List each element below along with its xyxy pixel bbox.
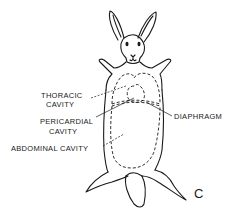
tail-base (126, 173, 142, 176)
right-hindlimb (142, 170, 186, 200)
right-eye (138, 42, 141, 47)
label-pericardial-line2: CAVITY (49, 127, 77, 136)
label-pericardial-line1: PERICARDIAL (40, 117, 93, 126)
body-right-side (155, 90, 164, 170)
body-left-side (104, 90, 108, 172)
label-abdominal: ABDOMINAL CAVITY (11, 144, 88, 153)
nose (130, 55, 136, 61)
panel-letter: C (194, 186, 203, 201)
rabbit-cavity-diagram: THORACIC CAVITY PERICARDIAL CAVITY ABDOM… (0, 0, 240, 215)
left-forelimb (99, 59, 126, 90)
label-thoracic-line2: CAVITY (46, 100, 74, 109)
label-thoracic-line1: THORACIC (41, 91, 83, 100)
right-forelimb (140, 59, 171, 90)
right-ear (138, 12, 156, 42)
label-diaphragm: DIAPHRAGM (174, 112, 222, 121)
tail (125, 176, 145, 207)
left-hindlimb (86, 172, 128, 192)
abdominal-leader (103, 134, 124, 146)
left-eye (126, 42, 129, 47)
pericardial-leader (96, 98, 134, 117)
thoracic-leader (91, 86, 126, 98)
